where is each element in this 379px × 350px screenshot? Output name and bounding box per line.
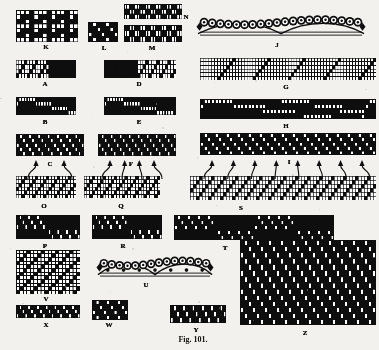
weave-pattern-k — [16, 10, 78, 42]
pattern-label-p: P — [43, 243, 47, 250]
figure-caption: Fig. 101. — [178, 335, 207, 344]
weave-pattern-t — [174, 215, 334, 240]
scan-speckle — [171, 268, 172, 269]
weave-pattern-s — [190, 176, 376, 200]
scan-speckle — [132, 248, 133, 249]
pattern-label-h: H — [283, 123, 288, 130]
figure-root: KLMNJADGBEHCFIOQSPRTVUXWYZ Fig. 101. — [0, 0, 379, 350]
weave-pattern-v — [16, 250, 80, 294]
weave-pattern-f — [98, 134, 176, 156]
weave-pattern-h — [200, 99, 376, 119]
pattern-label-t: T — [223, 245, 228, 252]
pattern-label-k: K — [43, 44, 48, 51]
weave-pattern-o — [16, 176, 76, 198]
scan-speckle — [148, 272, 149, 273]
weave-pattern-n — [124, 4, 182, 19]
pattern-label-z: Z — [303, 330, 308, 337]
scan-speckle — [127, 52, 128, 53]
pattern-label-g: G — [283, 84, 288, 91]
scan-speckle — [216, 205, 217, 206]
pattern-label-a: A — [42, 81, 47, 88]
scan-speckle — [374, 73, 375, 74]
pattern-label-b: B — [43, 119, 48, 126]
scan-speckle — [319, 209, 320, 210]
pattern-label-f: F — [129, 161, 133, 168]
weave-pattern-x — [16, 305, 80, 318]
weave-pattern-c — [16, 134, 84, 156]
pattern-label-j: J — [275, 42, 279, 49]
pattern-label-s: S — [239, 205, 243, 212]
pattern-label-i: I — [288, 159, 291, 166]
weave-pattern-y — [170, 305, 226, 323]
weave-pattern-z — [240, 240, 376, 325]
pattern-label-o: O — [41, 203, 46, 210]
weave-pattern-a — [16, 60, 76, 78]
pattern-label-q: Q — [118, 203, 123, 210]
scan-speckle — [92, 118, 93, 119]
scan-speckle — [10, 248, 11, 249]
weave-pattern-r — [92, 215, 162, 239]
pattern-label-m: M — [149, 45, 156, 52]
pattern-label-y: Y — [193, 327, 198, 334]
pattern-label-r: R — [120, 243, 125, 250]
scan-speckle — [162, 127, 164, 129]
weave-pattern-w — [92, 300, 128, 320]
weave-pattern-e — [104, 97, 176, 115]
scan-speckle — [65, 286, 66, 287]
scan-speckle — [112, 188, 113, 189]
scan-speckle — [215, 82, 216, 83]
pattern-label-x: X — [43, 322, 48, 329]
pattern-label-n: N — [183, 14, 188, 21]
pattern-label-v: V — [43, 296, 48, 303]
weave-pattern-g — [200, 58, 376, 80]
scan-speckle — [93, 166, 95, 168]
scan-speckle — [112, 273, 113, 274]
scan-speckle — [0, 98, 1, 99]
weave-pattern-d — [104, 60, 176, 78]
pattern-label-c: C — [47, 161, 52, 168]
weave-pattern-m — [124, 25, 182, 42]
pattern-label-u: U — [143, 282, 148, 289]
weave-pattern-q — [84, 176, 160, 198]
thread-cross-section-u — [96, 250, 214, 280]
weave-pattern-l — [88, 22, 118, 42]
scan-speckle — [335, 24, 336, 25]
pattern-label-l: L — [102, 45, 107, 52]
scan-speckle — [255, 80, 256, 81]
scan-speckle — [110, 292, 111, 293]
scan-speckle — [197, 157, 198, 158]
weave-pattern-i — [200, 133, 376, 155]
pattern-label-w: W — [106, 322, 113, 329]
thread-cross-section-j — [196, 8, 366, 40]
pattern-label-e: E — [137, 119, 142, 126]
scan-speckle — [253, 320, 254, 321]
weave-pattern-p — [16, 215, 80, 239]
scan-speckle — [365, 89, 367, 91]
weave-pattern-b — [16, 97, 76, 115]
scan-speckle — [198, 301, 200, 303]
scan-speckle — [22, 133, 24, 135]
pattern-label-d: D — [136, 81, 141, 88]
scan-speckle — [156, 103, 157, 104]
